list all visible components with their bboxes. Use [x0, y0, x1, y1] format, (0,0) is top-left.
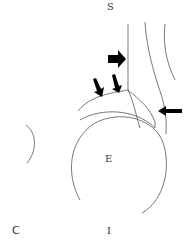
right-curve-2 [164, 24, 175, 80]
label-superior: S [107, 2, 114, 12]
label-center: E [105, 154, 112, 164]
fork-line-1 [128, 90, 140, 128]
right-curve-1 [145, 22, 166, 134]
down-arrow-icon-1 [93, 78, 104, 97]
label-corner: C [12, 225, 20, 236]
sphere-outline [71, 117, 166, 213]
left-arc [26, 125, 34, 163]
left-arrow-icon [158, 106, 182, 116]
right-arrow-icon [108, 50, 126, 68]
label-inferior: I [107, 226, 111, 236]
down-arrow-icon-2 [112, 74, 122, 93]
fork-line-2 [128, 90, 155, 128]
line-drawing [0, 0, 195, 242]
upper-slope-line [78, 90, 128, 111]
